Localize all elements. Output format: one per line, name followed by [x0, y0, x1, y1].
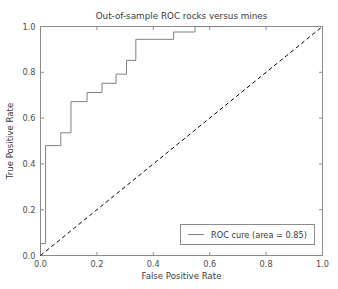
chart-title: Out-of-sample ROC rocks versus mines — [96, 11, 268, 21]
x-axis-tick-labels: 0.00.20.40.60.81.0 — [34, 259, 329, 269]
x-tick-label: 0.8 — [260, 259, 273, 269]
y-axis-tick-labels: 0.00.20.40.60.81.0 — [22, 22, 35, 261]
y-tick-label: 0.0 — [22, 251, 35, 261]
x-tick-label: 0.4 — [147, 259, 160, 269]
legend-label-roc: ROC cure (area = 0.85) — [211, 230, 307, 240]
x-tick-label: 0.2 — [90, 259, 103, 269]
roc-chart-figure: Out-of-sample ROC rocks versus mines 0.0… — [0, 0, 338, 289]
y-tick-label: 0.2 — [22, 205, 35, 215]
chance-diagonal-line — [41, 27, 323, 256]
y-tick-label: 0.4 — [22, 159, 35, 169]
x-tick-label: 0.6 — [203, 259, 216, 269]
y-tick-label: 1.0 — [22, 22, 35, 32]
y-tick-label: 0.6 — [22, 113, 35, 123]
y-tick-label: 0.8 — [22, 67, 35, 77]
x-tick-label: 1.0 — [316, 259, 329, 269]
roc-plot-canvas: Out-of-sample ROC rocks versus mines 0.0… — [0, 0, 338, 289]
x-axis-label: False Positive Rate — [142, 271, 222, 281]
y-axis-label: True Positive Rate — [5, 103, 15, 181]
legend: ROC cure (area = 0.85) — [181, 225, 315, 245]
roc-curve-line — [41, 27, 227, 256]
x-tick-label: 0.0 — [34, 259, 47, 269]
